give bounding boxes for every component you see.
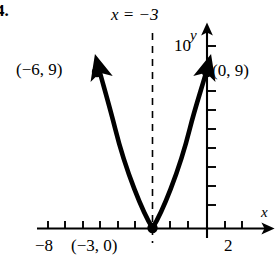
y-tick-label-10: 10 (174, 37, 191, 54)
point-marker-vertex (147, 223, 157, 233)
point-marker-0-9 (202, 67, 212, 77)
parabola-curve-left (100, 71, 153, 228)
point-label-minus6-9: (−6, 9) (16, 61, 62, 78)
point-label-0-9: (0, 9) (212, 62, 249, 79)
x-tick-label-minus8: −8 (35, 237, 53, 254)
parabola-figure: 4. x = −3 y x 10 (−6, 9) (0, 9) −8 (−3, … (0, 0, 278, 269)
vertex-label: (−3, 0) (71, 237, 117, 254)
x-tick-label-2: 2 (224, 237, 233, 254)
parabola-plot (0, 0, 278, 269)
axis-of-symmetry-label: x = −3 (111, 6, 159, 23)
parabola-curve-right (153, 71, 207, 228)
x-axis-label: x (261, 205, 268, 220)
y-axis-label: y (190, 28, 197, 43)
point-marker-minus6-9 (92, 67, 102, 77)
problem-number: 4. (0, 2, 9, 19)
